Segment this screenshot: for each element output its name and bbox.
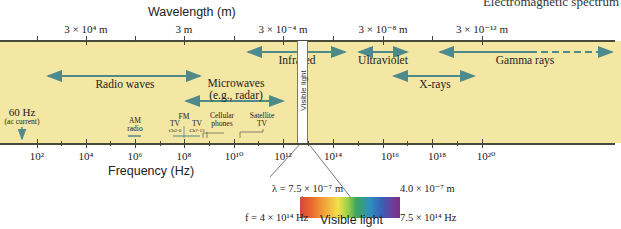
cellular-phones-annotation: Cellular phones — [210, 112, 234, 128]
tv-ch7-13-annotation: TV Ch7-13 — [190, 120, 205, 133]
gamma-rays-label: Gamma rays — [496, 54, 554, 66]
radio-waves-label: Radio waves — [95, 78, 154, 90]
visible-light-caption: Visible light — [320, 213, 383, 227]
60hz-annotation: 60 Hz (ac current) — [5, 106, 40, 126]
tv-ch2-6-annotation: TV Ch2-6 — [169, 120, 182, 133]
freq-violet-label: 7.5 × 10¹⁴ Hz — [400, 212, 456, 223]
visible-light-strip: Visible light — [297, 41, 308, 143]
freq-red-label: f = 4 × 10¹⁴ Hz — [245, 212, 308, 223]
lambda-red-label: λ = 7.5 × 10⁻⁷ m — [272, 182, 343, 194]
microwaves-label: Microwaves (e.g., radar) — [208, 77, 265, 101]
band-arrows — [0, 0, 621, 229]
xrays-label: X-rays — [419, 78, 450, 90]
visible-strip-label: Visible light — [299, 48, 308, 134]
satellite-tv-annotation: Satellite TV — [250, 112, 275, 128]
lambda-violet-label: 4.0 × 10⁻⁷ m — [400, 182, 455, 194]
ultraviolet-label: Ultraviolet — [358, 54, 408, 66]
am-radio-annotation: AM radio — [127, 117, 142, 133]
